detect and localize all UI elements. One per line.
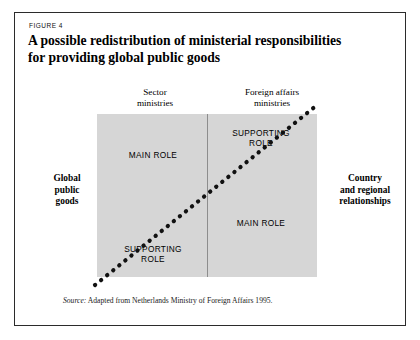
matrix-vertical-divider xyxy=(207,114,208,277)
column-header-foreign-affairs-ministries: Foreign affairsministries xyxy=(222,87,322,109)
matrix-cell-bottom-right: MAIN ROLE xyxy=(219,218,303,228)
column-header-sector-ministries: Sectorministries xyxy=(110,87,200,109)
matrix-cell-top-left: MAIN ROLE xyxy=(113,150,193,160)
figure-page: FIGURE 4 A possible redistribution of mi… xyxy=(0,0,420,340)
source-text: Adapted from Netherlands Ministry of For… xyxy=(86,296,272,305)
figure-title-line2: for providing global public goods xyxy=(28,50,394,67)
figure-title-line1: A possible redistribution of ministerial… xyxy=(28,33,341,48)
source-prefix: Source: xyxy=(63,296,86,305)
figure-title: A possible redistribution of ministerial… xyxy=(28,33,394,66)
matrix-cell-top-right: SUPPORTINGROLE xyxy=(219,128,303,148)
side-label-global-public-goods: Globalpublicgoods xyxy=(39,173,95,208)
matrix-panel: MAIN ROLE SUPPORTINGROLE MAIN ROLE SUPPO… xyxy=(97,114,317,277)
side-label-country-regional-relationships: Countryand regionalrelationships xyxy=(327,173,403,208)
figure-label: FIGURE 4 xyxy=(29,22,63,29)
matrix-cell-bottom-left: SUPPORTINGROLE xyxy=(113,244,193,264)
figure-box: FIGURE 4 A possible redistribution of mi… xyxy=(14,12,406,326)
figure-source: Source: Adapted from Netherlands Ministr… xyxy=(63,296,272,305)
